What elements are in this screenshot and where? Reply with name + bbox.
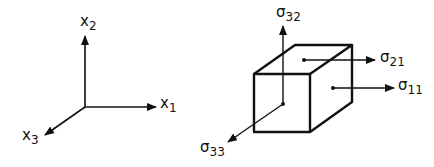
sigma33-label: σ33 [200, 140, 225, 158]
x1-base: x [160, 94, 169, 112]
sigma32-label: σ32 [276, 5, 301, 23]
x2-base: x [80, 12, 89, 30]
sigma11-subscript: 11 [408, 83, 423, 97]
sigma32-subscript: 32 [286, 10, 301, 24]
sigma33-base: σ [200, 138, 210, 156]
sigma32-base: σ [276, 3, 286, 21]
sigma11-point [331, 86, 335, 90]
sigma21-label: σ21 [380, 50, 405, 68]
sigma21-base: σ [380, 48, 390, 66]
sigma21-subscript: 21 [390, 55, 405, 69]
sigma21-point [302, 58, 306, 62]
sigma33-subscript: 33 [210, 145, 225, 159]
sigma11-base: σ [398, 76, 408, 94]
x3-subscript: 3 [31, 133, 39, 147]
sigma33-arrow [228, 104, 283, 142]
x2-label: x2 [80, 14, 97, 32]
x3-base: x [22, 126, 31, 144]
sigma32-point [281, 102, 285, 106]
x1-subscript: 1 [169, 101, 177, 115]
x1-label: x1 [160, 96, 177, 114]
x3-axis-arrow [45, 107, 85, 135]
x2-subscript: 2 [89, 19, 97, 33]
x3-label: x3 [22, 128, 39, 146]
application-points [281, 58, 335, 106]
coordinate-axes [45, 36, 156, 135]
sigma11-label: σ11 [398, 78, 423, 96]
